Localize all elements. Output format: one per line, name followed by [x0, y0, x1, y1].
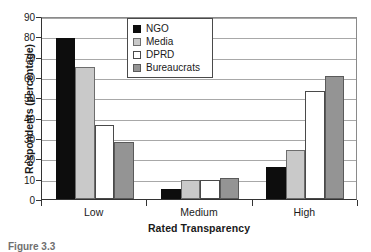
y-axis-tick-label: 30: [0, 134, 35, 145]
legend-swatch-icon: [133, 25, 141, 33]
y-axis-tick-label: 90: [0, 12, 35, 23]
legend-swatch-icon: [133, 64, 141, 72]
legend-swatch-icon: [133, 38, 141, 46]
bar-high-media: [286, 150, 306, 199]
legend-item-bureaucrats: Bureaucrats: [133, 61, 208, 74]
bar-medium-media: [181, 180, 201, 199]
x-axis-tick-label-low: Low: [34, 206, 154, 218]
bar-high-dprd: [305, 91, 325, 199]
legend-label: Bureaucrats: [146, 62, 200, 73]
bar-medium-bureaucrats: [220, 178, 240, 199]
x-axis-tick-label-high: High: [244, 206, 364, 218]
figure-caption: Figure 3.3: [8, 241, 55, 252]
legend-label: Media: [146, 36, 173, 47]
bar-low-dprd: [95, 125, 115, 199]
legend-label: DPRD: [146, 49, 174, 60]
y-axis-tick-label: 50: [0, 93, 35, 104]
y-axis-tick-label: 60: [0, 73, 35, 84]
bar-high-bureaucrats: [325, 76, 345, 199]
x-axis-tick-label-medium: Medium: [139, 206, 259, 218]
legend-item-dprd: DPRD: [133, 48, 208, 61]
bar-medium-ngo: [161, 189, 181, 199]
legend-item-media: Media: [133, 35, 208, 48]
chart-legend: NGOMediaDPRDBureaucrats: [127, 18, 213, 78]
y-axis-tick-label: 70: [0, 52, 35, 63]
x-axis-title: Rated Transparency: [41, 222, 357, 234]
y-axis-tick-label: 10: [0, 174, 35, 185]
bar-low-bureaucrats: [114, 142, 134, 199]
y-axis-tick-label: 40: [0, 113, 35, 124]
y-axis-tick-label: 20: [0, 154, 35, 165]
y-axis-tick-label: 80: [0, 32, 35, 43]
legend-item-ngo: NGO: [133, 22, 208, 35]
legend-swatch-icon: [133, 51, 141, 59]
legend-label: NGO: [146, 23, 169, 34]
bar-low-ngo: [56, 38, 76, 199]
bar-medium-dprd: [200, 180, 220, 199]
y-axis-tick-label: 0: [0, 195, 35, 206]
bar-high-ngo: [266, 167, 286, 199]
bar-low-media: [75, 67, 95, 199]
